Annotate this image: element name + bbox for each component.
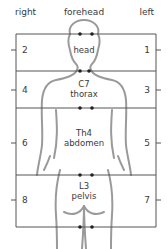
right-number-6: 6 (22, 138, 28, 148)
header-left-label: left (139, 7, 154, 17)
right-number-2: 2 (22, 45, 28, 55)
left-number-1: 1 (144, 45, 150, 55)
right-number-8: 8 (22, 195, 28, 205)
header-right-label: right (15, 7, 37, 17)
region-abdomen-label: abdomen (64, 138, 104, 148)
region-thorax-label: thorax (70, 89, 98, 99)
left-number-3: 3 (144, 85, 150, 95)
region-abdomen-level: Th4 (75, 128, 92, 138)
region-thorax-level: C7 (78, 79, 89, 89)
left-number-5: 5 (144, 138, 150, 148)
region-pelvis-level: L3 (79, 181, 89, 191)
right-number-4: 4 (22, 85, 28, 95)
header-center-label: forehead (64, 7, 104, 17)
region-head-label: head (73, 45, 94, 55)
left-number-7: 7 (144, 195, 150, 205)
body-regions-diagram: right forehead left (0, 0, 168, 249)
region-pelvis-label: pelvis (72, 191, 97, 201)
